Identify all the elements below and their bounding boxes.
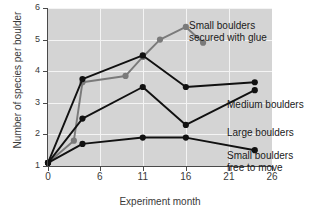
data-point-marker [45, 160, 51, 166]
data-point-marker [183, 122, 189, 128]
x-tick-label: 11 [132, 172, 154, 182]
y-tick-mark [43, 71, 47, 72]
data-point-marker [71, 138, 77, 144]
y-axis-line [47, 8, 48, 166]
y-tick-mark [43, 40, 47, 41]
series-line [48, 138, 255, 163]
series-small-boulders-secured-with-glue [45, 24, 206, 166]
y-tick-mark [43, 134, 47, 135]
x-tick-label: 21 [218, 172, 240, 182]
series-label-small-boulders-glue: Small boulders secured with glue [189, 20, 267, 43]
series-label-small-boulders-free: Small boulders free to move [227, 150, 293, 173]
y-axis-title: Number of species per boulder [12, 0, 23, 160]
y-tick-mark [43, 103, 47, 104]
x-axis-title: Experiment month [48, 196, 272, 207]
y-tick-label: 1 [18, 161, 40, 170]
series-label-medium-boulders: Medium boulders [227, 99, 304, 111]
data-point-marker [252, 79, 258, 85]
data-point-marker [140, 84, 146, 90]
data-point-marker [140, 134, 146, 140]
data-point-marker [157, 37, 163, 43]
data-point-marker [79, 76, 85, 82]
x-tick-label: 0 [37, 172, 59, 182]
y-tick-mark [43, 8, 47, 9]
series-medium-boulders [45, 52, 258, 166]
series-lines-layer [0, 0, 322, 222]
y-tick-mark [43, 166, 47, 167]
data-point-marker [183, 134, 189, 140]
x-tick-label: 16 [175, 172, 197, 182]
data-point-marker [252, 87, 258, 93]
line-chart: 123456 0611162126 Number of species per … [0, 0, 322, 222]
data-point-marker [79, 141, 85, 147]
data-point-marker [122, 73, 128, 79]
data-point-marker [79, 116, 85, 122]
data-point-marker [183, 84, 189, 90]
series-label-large-boulders: Large boulders [227, 127, 294, 139]
series-large-boulders [45, 84, 258, 166]
series-line [48, 87, 255, 163]
x-tick-label: 6 [89, 172, 111, 182]
series-small-boulders-free-to-move [45, 134, 258, 165]
series-line [48, 27, 203, 163]
data-point-marker [140, 52, 146, 58]
x-tick-label: 26 [261, 172, 283, 182]
